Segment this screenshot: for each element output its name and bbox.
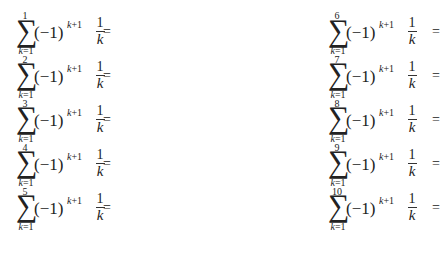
right_column-summation-row-4: 9 ∑ k=1 (−1) k+1 1 k = <box>328 142 441 186</box>
equals-sign: = <box>103 200 111 216</box>
exp-rest: +1 <box>383 151 394 162</box>
exponent: k+1 <box>379 195 394 206</box>
lower-eq: =1 <box>335 221 346 232</box>
summand-base: (−1) <box>346 199 375 219</box>
lower-eq: =1 <box>23 221 34 232</box>
sigma-symbol: ∑ <box>328 146 346 178</box>
numerator: 1 <box>407 192 417 206</box>
exp-rest: +1 <box>71 195 82 206</box>
denominator: k <box>407 208 417 223</box>
left_column-summation-row-3: 3 ∑ k=1 (−1) k+1 1 k = <box>16 98 136 142</box>
right_column-summation-row-1: 6 ∑ k=1 (−1) k+1 1 k = <box>328 10 441 54</box>
sigma-symbol: ∑ <box>16 146 34 178</box>
right_column-summation-row-2: 7 ∑ k=1 (−1) k+1 1 k = <box>328 54 441 98</box>
right_column-summation-row-3: 8 ∑ k=1 (−1) k+1 1 k = <box>328 98 441 142</box>
left_column-summation-row-5: 5 ∑ k=1 (−1) k+1 1 k = <box>16 186 136 230</box>
fraction: 1 k <box>407 192 417 223</box>
sigma-symbol: ∑ <box>16 190 34 222</box>
exp-rest: +1 <box>71 63 82 74</box>
equals-sign: = <box>432 156 440 172</box>
exp-rest: +1 <box>383 195 394 206</box>
lower-bound: k=1 <box>327 221 349 232</box>
exp-rest: +1 <box>383 63 394 74</box>
equals-sign: = <box>432 68 440 84</box>
sigma-symbol: ∑ <box>16 102 34 134</box>
exponent: k+1 <box>379 107 394 118</box>
numerator: 1 <box>407 60 417 74</box>
exp-rest: +1 <box>71 19 82 30</box>
left_column-summation-row-4: 4 ∑ k=1 (−1) k+1 1 k = <box>16 142 136 186</box>
equals-sign: = <box>432 200 440 216</box>
summand-base: (−1) <box>346 111 375 131</box>
exp-rest: +1 <box>71 107 82 118</box>
exponent: k+1 <box>67 19 82 30</box>
summand-base: (−1) <box>34 111 63 131</box>
denominator: k <box>407 120 417 135</box>
sigma-symbol: ∑ <box>328 190 346 222</box>
fraction: 1 k <box>407 60 417 91</box>
equals-sign: = <box>103 156 111 172</box>
fraction: 1 k <box>407 16 417 47</box>
sigma-symbol: ∑ <box>328 102 346 134</box>
equals-sign: = <box>103 112 111 128</box>
sigma-symbol: ∑ <box>16 14 34 46</box>
denominator: k <box>407 32 417 47</box>
exponent: k+1 <box>379 63 394 74</box>
exponent: k+1 <box>379 19 394 30</box>
denominator: k <box>407 76 417 91</box>
summand-base: (−1) <box>346 155 375 175</box>
sigma-symbol: ∑ <box>328 58 346 90</box>
numerator: 1 <box>407 148 417 162</box>
left_column-summation-row-2: 2 ∑ k=1 (−1) k+1 1 k = <box>16 54 136 98</box>
equals-sign: = <box>103 68 111 84</box>
fraction: 1 k <box>407 104 417 135</box>
equals-sign: = <box>432 112 440 128</box>
numerator: 1 <box>407 104 417 118</box>
fraction: 1 k <box>407 148 417 179</box>
summand-base: (−1) <box>34 155 63 175</box>
left_column-summation-row-1: 1 ∑ k=1 (−1) k+1 1 k = <box>16 10 136 54</box>
summand-base: (−1) <box>34 67 63 87</box>
denominator: k <box>407 164 417 179</box>
exponent: k+1 <box>67 151 82 162</box>
summand-base: (−1) <box>34 23 63 43</box>
exp-rest: +1 <box>383 19 394 30</box>
sigma-symbol: ∑ <box>328 14 346 46</box>
summand-base: (−1) <box>346 23 375 43</box>
equals-sign: = <box>432 24 440 40</box>
exp-rest: +1 <box>71 151 82 162</box>
exponent: k+1 <box>67 195 82 206</box>
exponent: k+1 <box>379 151 394 162</box>
summand-base: (−1) <box>34 199 63 219</box>
summand-base: (−1) <box>346 67 375 87</box>
equals-sign: = <box>103 24 111 40</box>
exponent: k+1 <box>67 107 82 118</box>
sigma-symbol: ∑ <box>16 58 34 90</box>
right_column-summation-row-5: 10 ∑ k=1 (−1) k+1 1 k = <box>328 186 441 230</box>
numerator: 1 <box>407 16 417 30</box>
exp-rest: +1 <box>383 107 394 118</box>
lower-bound: k=1 <box>15 221 37 232</box>
exponent: k+1 <box>67 63 82 74</box>
